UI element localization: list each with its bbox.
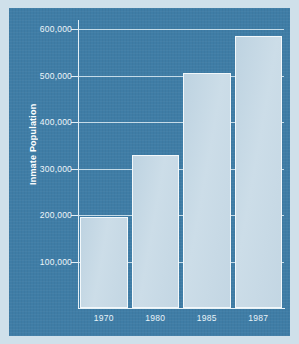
y-axis-tick-mark [71, 76, 78, 77]
bar-1985 [183, 73, 231, 308]
y-axis-tick-mark [71, 215, 78, 216]
bar-chart-figure: 100,000200,000300,000400,000500,000600,0… [0, 0, 299, 344]
y-axis-tick-label: 300,000 [40, 164, 72, 174]
bar-1987 [235, 36, 283, 308]
y-axis-tick-mark [71, 122, 78, 123]
y-axis-tick-label: 500,000 [40, 71, 72, 81]
y-axis-title: Inmate Population [26, 96, 40, 192]
y-axis-tick-mark [71, 29, 78, 30]
x-axis-tick-label: 1970 [94, 313, 114, 323]
y-axis-tick-label: 100,000 [40, 257, 72, 267]
plot-area [78, 20, 284, 308]
x-axis-tick-label: 1987 [248, 313, 268, 323]
y-axis-tick-label: 200,000 [40, 210, 72, 220]
y-axis-tick-label: 400,000 [40, 117, 72, 127]
bar-1980 [132, 155, 180, 308]
x-axis-tick-label: 1985 [197, 313, 217, 323]
y-axis-tick-mark [71, 169, 78, 170]
y-axis-tick-label: 600,000 [40, 24, 72, 34]
gridline [78, 29, 284, 30]
x-axis-baseline [78, 308, 285, 309]
y-axis-tick-mark [71, 262, 78, 263]
bar-1970 [80, 217, 128, 308]
x-axis-tick-label: 1980 [145, 313, 165, 323]
